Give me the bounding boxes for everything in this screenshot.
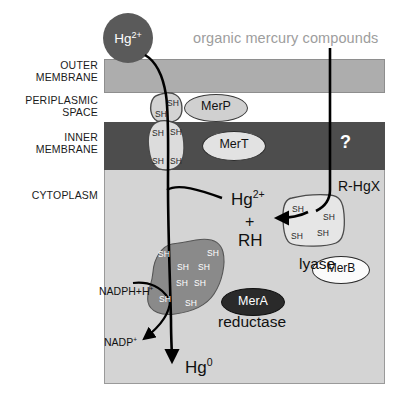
thiol-label: SH [170,156,182,166]
cytoplasmic-mercury-ion-label: Hg2+ [231,190,265,210]
nadph-label: NADPH+H+ [99,285,153,297]
thiol-label: SH [292,204,304,214]
merp-protein-label[interactable]: MerP [184,94,248,122]
diagram-vector-layer: Hg2+ [0,0,411,404]
nadp-text: NADP [104,336,133,348]
thiol-label: SH [291,231,303,241]
thiol-label: SH [167,98,179,108]
mercury-release-arrow [167,187,222,198]
lyase-role-label: lyase [299,255,335,273]
thiol-label: SH [152,128,164,138]
thiol-label: SH [159,294,171,304]
thiol-label: SH [317,228,329,238]
hydrocarbon-product-label: RH [238,231,263,251]
mercury-charge: 2+ [253,188,265,200]
merp-protein-text: MerP [185,95,247,118]
nadph-charge: + [149,285,153,292]
thiol-label: SH [177,262,189,272]
thiol-label: SH [176,278,188,288]
thiol-label: SH [323,212,335,222]
plus-sign-label: + [245,213,254,231]
organomercurial-label: R-HgX [338,178,380,194]
mercury-resistance-pathway-diagram: OUTER MEMBRANE PERIPLASMIC SPACE INNER M… [0,0,411,404]
thiol-label: SH [185,298,197,308]
reductase-role-label: reductase [218,313,286,331]
thiol-label: SH [207,248,219,258]
thiol-label: SH [194,278,206,288]
elemental-mercury-label: Hg0 [185,358,213,378]
mercury-metal-charge: 0 [207,356,213,368]
mert-protein-label[interactable]: MerT [202,131,266,161]
thiol-label: SH [158,249,170,259]
organomercurial-entry-arrow [316,48,330,211]
mercury-symbol: Hg [231,190,253,209]
thiol-label: SH [198,262,210,272]
nadph-text: NADPH+H [99,285,149,297]
mercury-metal-symbol: Hg [185,358,207,377]
mera-protein-text: MerA [222,289,284,313]
mert-protein-text: MerT [203,132,265,157]
mera-protein-label[interactable]: MerA [221,288,285,316]
unknown-transporter-question-mark: ? [340,132,351,153]
nadp-label: NADP+ [104,336,137,348]
thiol-label: SH [170,127,182,137]
nadp-charge: + [133,336,137,343]
thiol-label: SH [152,156,164,166]
thiol-label: SH [155,109,167,119]
